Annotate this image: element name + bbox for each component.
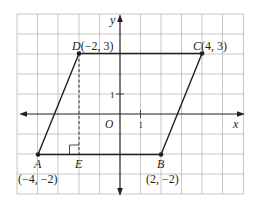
label-E: E — [74, 157, 83, 171]
label-C: C(4, 3) — [193, 39, 227, 53]
y-unit-label: 1 — [110, 90, 115, 100]
x-unit-label: 1 — [139, 120, 144, 130]
x-axis-left-arrow-icon — [19, 111, 27, 117]
y-axis-label: y — [109, 13, 116, 27]
right-angle-marker — [70, 145, 80, 155]
y-axis-up-arrow-icon — [117, 14, 123, 22]
y-axis — [117, 14, 123, 196]
origin-label: O — [105, 118, 114, 130]
label-A-coords: (−4, −2) — [18, 172, 58, 186]
label-B: B — [157, 157, 165, 171]
label-C-coords: (4, 3) — [201, 39, 227, 53]
y-axis-down-arrow-icon — [117, 188, 123, 196]
label-D-coords: (−2, 3) — [81, 39, 114, 53]
coordinate-diagram: y x O 1 1 D(−2, 3) C(4, 3) A (−4, −2) E … — [0, 0, 255, 204]
label-A: A — [33, 157, 42, 171]
label-B-coords: (2, −2) — [146, 172, 179, 186]
x-axis-label: x — [232, 117, 239, 131]
label-D: D(−2, 3) — [71, 39, 113, 53]
